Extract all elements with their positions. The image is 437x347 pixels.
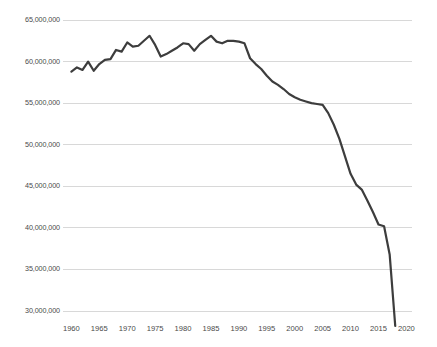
x-tick-label: 1980 — [175, 325, 192, 333]
series-line-value — [71, 36, 395, 326]
x-tick-label: 2010 — [342, 325, 359, 333]
x-tick-label: 1985 — [203, 325, 220, 333]
x-tick-label: 1965 — [91, 325, 108, 333]
x-tick-label: 2000 — [286, 325, 303, 333]
y-tick-label: 45,000,000 — [2, 182, 60, 189]
data-series-line — [71, 36, 395, 326]
gridlines — [63, 20, 412, 311]
x-tick-label: 2020 — [398, 325, 415, 333]
line-chart: 30,000,00035,000,00040,000,00045,000,000… — [0, 0, 437, 347]
y-tick-label: 35,000,000 — [2, 265, 60, 272]
y-tick-label: 55,000,000 — [2, 99, 60, 106]
y-tick-label: 40,000,000 — [2, 224, 60, 231]
y-tick-label: 50,000,000 — [2, 141, 60, 148]
x-tick-label: 2005 — [314, 325, 331, 333]
x-tick-label: 1995 — [258, 325, 275, 333]
x-tick-label: 2015 — [370, 325, 387, 333]
x-tick-label: 1975 — [147, 325, 164, 333]
x-tick-label: 1970 — [119, 325, 136, 333]
x-tick-label: 1960 — [63, 325, 80, 333]
x-tick-label: 1990 — [230, 325, 247, 333]
chart-plot-area — [0, 0, 437, 347]
y-tick-label: 30,000,000 — [2, 307, 60, 314]
y-tick-label: 60,000,000 — [2, 58, 60, 65]
y-tick-label: 65,000,000 — [2, 16, 60, 23]
